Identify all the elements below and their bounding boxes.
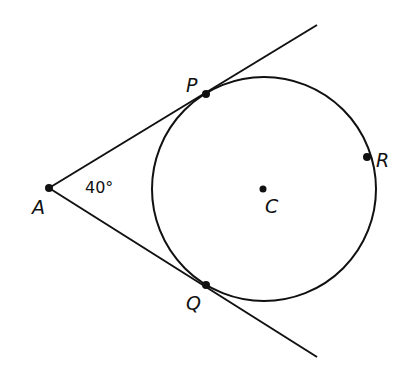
tangent-line-ap (49, 25, 317, 188)
label-r: R (376, 149, 389, 171)
point-a (45, 184, 53, 192)
point-r (363, 153, 371, 161)
point-q (202, 281, 210, 289)
label-q: Q (186, 292, 201, 314)
angle-label: 40° (85, 178, 113, 197)
label-p: P (186, 74, 198, 96)
point-p (202, 90, 210, 98)
label-a: A (30, 196, 45, 218)
label-c: C (265, 195, 279, 217)
tangent-circle-diagram: A P Q R C 40° (0, 0, 414, 374)
point-c (260, 186, 267, 193)
